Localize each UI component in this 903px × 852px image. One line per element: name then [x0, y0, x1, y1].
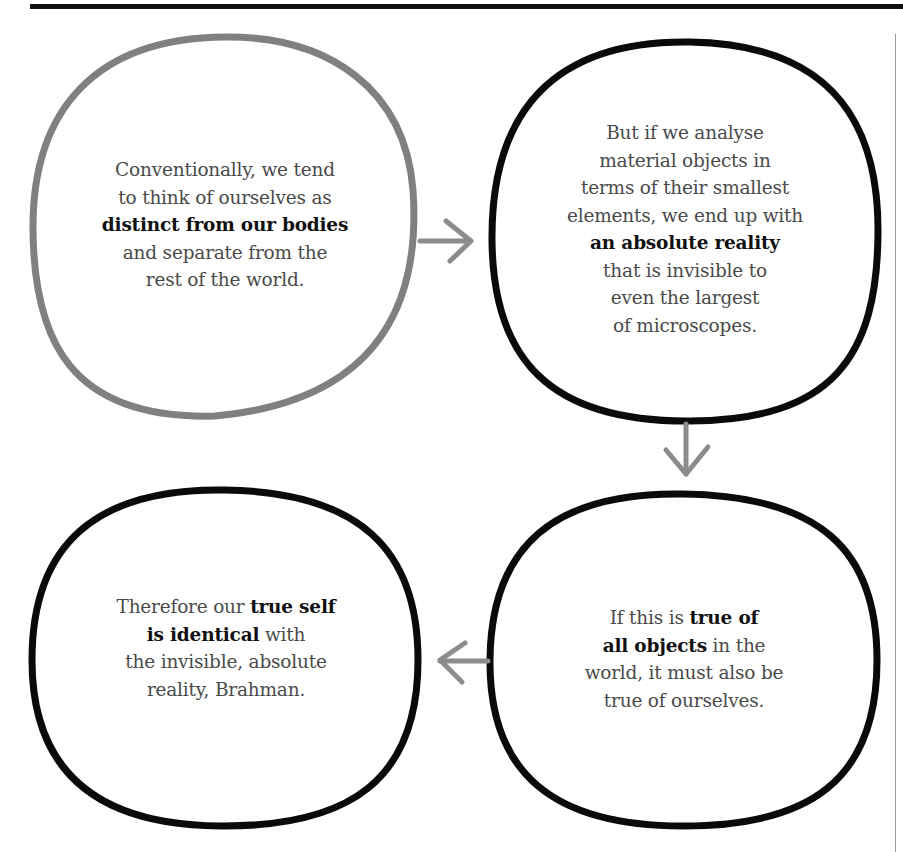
node-3-text: If this is true of all objects in the wo…: [585, 604, 784, 714]
node-1-line-4: and separate from the: [102, 239, 348, 267]
node-2-line-2: material objects in: [567, 147, 803, 175]
node-2-text: But if we analyse material objects in te…: [567, 119, 803, 339]
node-2-line-7: even the largest: [567, 284, 803, 312]
arrow-down-icon: [666, 424, 708, 474]
node-1-line-1: Conventionally, we tend: [102, 156, 348, 184]
node-1-line-2: to think of ourselves as: [102, 184, 348, 212]
emphasis-text: an absolute reality: [590, 232, 780, 253]
node-2-line-3: terms of their smallest: [567, 174, 803, 202]
node-2-line-1: But if we analyse: [567, 119, 803, 147]
emphasis-text: all objects: [603, 635, 707, 656]
emphasis-text: true self: [250, 596, 335, 617]
node-2-line-8: of microscopes.: [567, 312, 803, 340]
node-4: Therefore our true self is identical wit…: [38, 492, 414, 824]
node-2: But if we analyse material objects in te…: [498, 44, 872, 420]
node-1-line-5: rest of the world.: [102, 266, 348, 294]
node-3: If this is true of all objects in the wo…: [496, 496, 872, 824]
arrow-right-icon: [420, 221, 471, 261]
node-3-line-4: true of ourselves.: [585, 687, 784, 715]
node-4-line-2: is identical with: [117, 621, 336, 649]
node-3-line-3: world, it must also be: [585, 659, 784, 687]
node-1-text: Conventionally, we tend to think of ours…: [102, 156, 348, 294]
node-2-line-4: elements, we end up with: [567, 202, 803, 230]
node-4-line-3: the invisible, absolute: [117, 648, 336, 676]
node-3-line-1: If this is true of: [585, 604, 784, 632]
node-3-line-2: all objects in the: [585, 632, 784, 660]
emphasis-text: is identical: [147, 624, 260, 645]
node-2-line-5: an absolute reality: [567, 229, 803, 257]
node-1-line-3: distinct from our bodies: [102, 211, 348, 239]
node-4-text: Therefore our true self is identical wit…: [117, 593, 336, 703]
node-4-line-1: Therefore our true self: [117, 593, 336, 621]
emphasis-text: distinct from our bodies: [102, 214, 348, 235]
node-2-line-6: that is invisible to: [567, 257, 803, 285]
emphasis-text: true of: [689, 607, 758, 628]
node-1: Conventionally, we tend to think of ours…: [40, 40, 410, 416]
arrow-left-icon: [440, 643, 488, 682]
node-4-line-4: reality, Brahman.: [117, 676, 336, 704]
